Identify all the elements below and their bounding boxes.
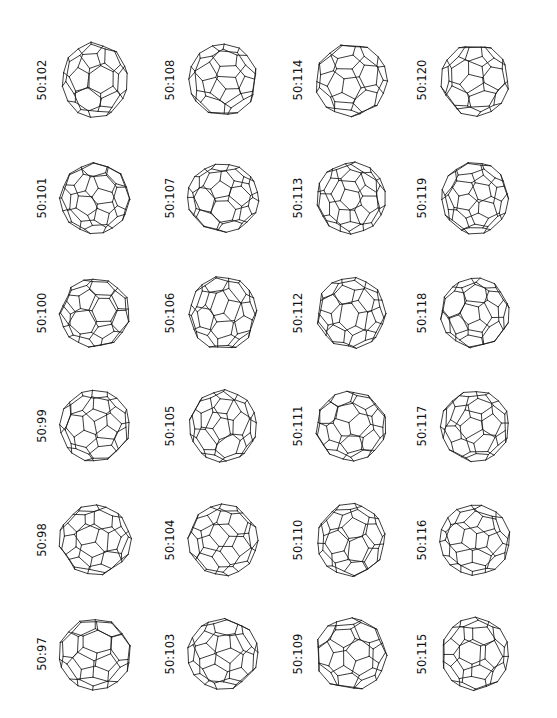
figure-sheet: 50:10250:10850:11450:12050:10150:10750:1… (0, 0, 557, 718)
isomer-cell: 50:119 (400, 140, 532, 256)
isomer-cell: 50:116 (400, 482, 532, 598)
cage-edges (59, 620, 130, 690)
cage-wireframe (60, 390, 129, 460)
isomer-cell: 50:111 (276, 368, 408, 484)
isomer-structure-drawing (38, 140, 152, 256)
cage-wireframe (440, 505, 510, 575)
isomer-structure-drawing (418, 140, 532, 256)
cage-wireframe (440, 392, 508, 462)
cage-wireframe (318, 278, 386, 349)
cage-edges (440, 505, 510, 575)
cage-edges (188, 504, 258, 576)
cage-wireframe (59, 620, 130, 690)
cage-wireframe (188, 619, 258, 690)
isomer-cell: 50:120 (400, 22, 532, 138)
cage-wireframe (189, 44, 256, 114)
cage-edges (441, 47, 508, 117)
isomer-cell: 50:106 (148, 255, 280, 371)
cage-wireframe (62, 42, 127, 117)
cage-edges (316, 391, 385, 461)
isomer-structure-drawing (166, 140, 280, 256)
isomer-cell: 50:117 (400, 368, 532, 484)
isomer-structure-drawing (418, 255, 532, 371)
cage-edges (62, 42, 127, 117)
isomer-cell: 50:115 (400, 596, 532, 712)
cage-edges (317, 45, 388, 117)
isomer-cell: 50:103 (148, 596, 280, 712)
isomer-structure-drawing (294, 255, 408, 371)
isomer-cell: 50:109 (276, 596, 408, 712)
cage-wireframe (317, 45, 388, 117)
isomer-structure-drawing (294, 368, 408, 484)
isomer-structure-drawing (166, 368, 280, 484)
isomer-structure-drawing (294, 596, 408, 712)
isomer-cell: 50:101 (20, 140, 152, 256)
cage-edges (442, 163, 509, 234)
cage-wireframe (60, 163, 130, 234)
isomer-cell: 50:104 (148, 482, 280, 598)
isomer-cell: 50:108 (148, 22, 280, 138)
isomer-structure-drawing (38, 22, 152, 138)
cage-edges (59, 279, 129, 347)
isomer-structure-drawing (294, 22, 408, 138)
cage-edges (60, 390, 129, 460)
cage-wireframe (441, 47, 508, 117)
cage-wireframe (442, 163, 509, 234)
isomer-structure-drawing (294, 482, 408, 598)
cage-edges (441, 278, 509, 348)
cage-wireframe (317, 162, 385, 234)
cage-edges (443, 617, 508, 690)
cage-edges (189, 277, 257, 348)
isomer-cell: 50:112 (276, 255, 408, 371)
cage-wireframe (188, 164, 259, 232)
isomer-cell: 50:102 (20, 22, 152, 138)
cage-wireframe (443, 617, 508, 690)
isomer-structure-drawing (166, 22, 280, 138)
cage-edges (318, 278, 386, 349)
cage-edges (318, 618, 387, 689)
cage-edges (317, 162, 385, 234)
cage-wireframe (318, 503, 385, 576)
cage-edges (190, 390, 257, 462)
isomer-cell: 50:97 (20, 596, 152, 712)
isomer-structure-drawing (38, 596, 152, 712)
isomer-structure-drawing (418, 22, 532, 138)
isomer-structure-drawing (294, 140, 408, 256)
cage-wireframe (189, 277, 257, 348)
isomer-structure-drawing (418, 368, 532, 484)
cage-edges (60, 163, 130, 234)
isomer-structure-drawing (38, 368, 152, 484)
isomer-cell: 50:110 (276, 482, 408, 598)
isomer-cell: 50:114 (276, 22, 408, 138)
cage-edges (188, 164, 259, 232)
cage-edges (189, 44, 256, 114)
isomer-structure-drawing (166, 596, 280, 712)
isomer-structure-drawing (418, 596, 532, 712)
cage-wireframe (441, 278, 509, 348)
isomer-structure-drawing (38, 255, 152, 371)
isomer-cell: 50:113 (276, 140, 408, 256)
isomer-structure-drawing (38, 482, 152, 598)
isomer-grid: 50:10250:10850:11450:12050:10150:10750:1… (0, 0, 557, 718)
isomer-cell: 50:99 (20, 368, 152, 484)
isomer-structure-drawing (166, 255, 280, 371)
cage-edges (318, 503, 385, 576)
cage-edges (59, 505, 131, 575)
isomer-cell: 50:118 (400, 255, 532, 371)
cage-wireframe (190, 390, 257, 462)
isomer-cell: 50:100 (20, 255, 152, 371)
cage-wireframe (316, 391, 385, 461)
isomer-cell: 50:105 (148, 368, 280, 484)
isomer-structure-drawing (418, 482, 532, 598)
isomer-cell: 50:107 (148, 140, 280, 256)
cage-wireframe (318, 618, 387, 689)
cage-edges (440, 392, 508, 462)
cage-wireframe (59, 505, 131, 575)
cage-wireframe (188, 504, 258, 576)
cage-edges (188, 619, 258, 690)
cage-wireframe (59, 279, 129, 347)
isomer-cell: 50:98 (20, 482, 152, 598)
isomer-structure-drawing (166, 482, 280, 598)
